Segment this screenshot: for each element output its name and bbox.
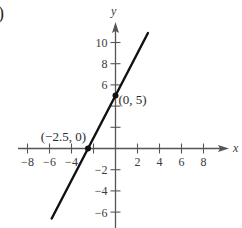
axes bbox=[18, 22, 229, 228]
y-axis-label: y bbox=[110, 4, 117, 18]
point-label: (0, 5) bbox=[119, 92, 147, 107]
part-label: ) bbox=[0, 3, 4, 24]
points: (0, 5)(−2.5, 0) bbox=[41, 92, 147, 152]
data-point bbox=[85, 146, 91, 152]
x-axis-label: x bbox=[232, 141, 239, 155]
y-tick-label: 6 bbox=[102, 78, 108, 92]
y-tick-label: −6 bbox=[95, 206, 108, 220]
x-tick-label: 4 bbox=[157, 155, 163, 169]
x-tick-label: −8 bbox=[21, 155, 34, 169]
y-tick-label: −4 bbox=[95, 184, 108, 198]
x-tick-label: 2 bbox=[135, 155, 141, 169]
x-tick-label: −6 bbox=[43, 155, 56, 169]
line-chart: ) −8−6−42468−6−4−26810 (0, 5)(−2.5, 0) x… bbox=[0, 0, 242, 228]
x-tick-label: −4 bbox=[65, 155, 78, 169]
point-label: (−2.5, 0) bbox=[41, 129, 86, 144]
x-tick-label: 6 bbox=[179, 155, 185, 169]
y-tick-label: −2 bbox=[95, 163, 108, 177]
x-tick-label: 8 bbox=[201, 155, 207, 169]
y-tick-label: 8 bbox=[102, 57, 108, 71]
y-tick-label: 10 bbox=[96, 36, 108, 50]
